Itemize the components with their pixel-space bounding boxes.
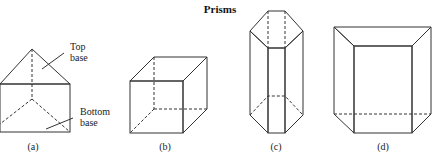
hexagonal-prism: (c) [250, 11, 303, 153]
caption-a: (a) [27, 141, 38, 153]
trapezoidal-prism: (d) [334, 27, 431, 153]
caption-b: (b) [159, 141, 171, 153]
top-base-label-2: base [70, 52, 88, 63]
bottom-base-label-1: Bottom [80, 106, 110, 117]
caption-c: (c) [270, 141, 281, 153]
triangular-prism: Top base Bottom base (a) [0, 41, 110, 153]
figure-title: Prisms [204, 3, 237, 15]
prisms-figure: Prisms Top base Bottom base (a) (b) (c) [0, 0, 436, 160]
cube: (b) [130, 57, 207, 153]
caption-d: (d) [377, 141, 389, 153]
top-base-label-1: Top [70, 41, 85, 52]
bottom-base-label-2: base [80, 117, 98, 128]
